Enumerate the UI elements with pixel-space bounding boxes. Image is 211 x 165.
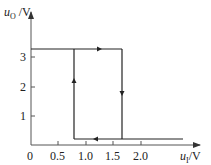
arrow-down-icon [120, 91, 125, 96]
hysteresis-chart: 3 2 1 0 0.5 1.0 1.5 2.0 uO /V uI/V [0, 0, 211, 165]
arrow-up-icon [72, 78, 77, 83]
x-tick-label: 0.5 [50, 149, 65, 163]
y-tick-label: 1 [20, 109, 26, 123]
x-tick-label: 0 [27, 149, 33, 163]
y-tick-label: 2 [20, 80, 26, 94]
y-axis-label: uO /V [4, 5, 31, 21]
arrow-left-icon [93, 137, 98, 142]
x-tick-label: 2.0 [133, 149, 148, 163]
x-tick-label: 1.0 [78, 149, 93, 163]
arrow-right-icon [97, 47, 102, 52]
x-tick-label: 1.5 [105, 149, 120, 163]
x-axis-label: uI/V [180, 149, 201, 165]
y-tick-label: 3 [20, 50, 26, 64]
